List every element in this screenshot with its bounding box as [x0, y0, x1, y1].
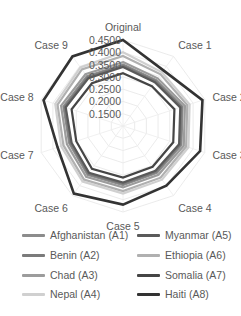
- legend-swatch: [137, 293, 160, 296]
- axis-label: Case 4: [178, 202, 211, 214]
- legend-item-myanmar: Myanmar (A5): [137, 226, 232, 244]
- legend-item-somalia: Somalia (A7): [137, 266, 226, 284]
- tick-label: 0.1500: [89, 108, 121, 120]
- legend-label: Myanmar (A5): [165, 229, 232, 241]
- legend-label: Chad (A3): [50, 269, 98, 281]
- legend-swatch: [22, 293, 45, 296]
- tick-label: 0.2000: [89, 95, 121, 107]
- legend-label: Haiti (A8): [165, 288, 209, 300]
- legend-swatch: [137, 274, 160, 277]
- legend-swatch: [22, 254, 45, 257]
- legend-item-nepal: Nepal (A4): [22, 285, 100, 303]
- axis-label: Case 9: [34, 39, 67, 51]
- legend-label: Ethiopia (A6): [165, 249, 226, 261]
- legend-item-afghanistan: Afghanistan (A1): [22, 226, 128, 244]
- legend-item-chad: Chad (A3): [22, 266, 98, 284]
- radar-chart: 0.15000.20000.25000.30000.35000.40000.45…: [0, 0, 241, 230]
- legend-label: Somalia (A7): [165, 269, 226, 281]
- tick-label: 0.4000: [89, 46, 121, 58]
- legend-item-haiti: Haiti (A8): [137, 285, 209, 303]
- legend-swatch: [137, 234, 160, 237]
- axis-label: Case 7: [0, 149, 33, 161]
- tick-label: 0.2500: [89, 83, 121, 95]
- tick-label: 0.4500: [89, 34, 121, 46]
- axis-label: Case 1: [178, 39, 211, 51]
- legend-label: Afghanistan (A1): [50, 229, 128, 241]
- legend-swatch: [22, 274, 45, 277]
- chart-legend: Afghanistan (A1) Benin (A2) Chad (A3) Ne…: [0, 226, 241, 316]
- axis-label: Case 3: [212, 149, 241, 161]
- radial-tick-labels: 0.15000.20000.25000.30000.35000.40000.45…: [89, 34, 121, 120]
- axis-label: Case 8: [0, 91, 33, 103]
- axis-label: Case 2: [212, 91, 241, 103]
- legend-swatch: [22, 234, 45, 237]
- tick-label: 0.3500: [89, 59, 121, 71]
- legend-label: Nepal (A4): [50, 288, 100, 300]
- legend-item-ethiopia: Ethiopia (A6): [137, 246, 226, 264]
- axis-label: Original: [105, 21, 141, 33]
- legend-label: Benin (A2): [50, 249, 100, 261]
- legend-item-benin: Benin (A2): [22, 246, 100, 264]
- axis-label: Case 6: [34, 202, 67, 214]
- legend-swatch: [137, 254, 160, 257]
- tick-label: 0.3000: [89, 71, 121, 83]
